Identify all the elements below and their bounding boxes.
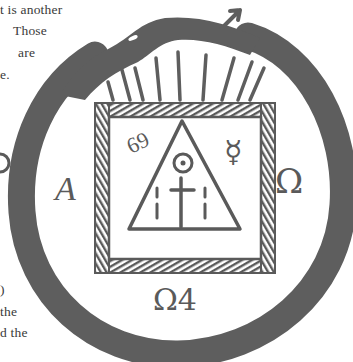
ouroboros-figure: 69 ☿ A Ω Ω4: [0, 0, 353, 362]
mercury-symbol-icon: ☿: [224, 134, 242, 169]
letter-alpha: A: [53, 170, 76, 207]
letter-omega: Ω: [275, 161, 303, 201]
document-page: t is another Those are e. ) the d the: [0, 0, 353, 362]
bottom-label: Ω4: [153, 282, 197, 317]
